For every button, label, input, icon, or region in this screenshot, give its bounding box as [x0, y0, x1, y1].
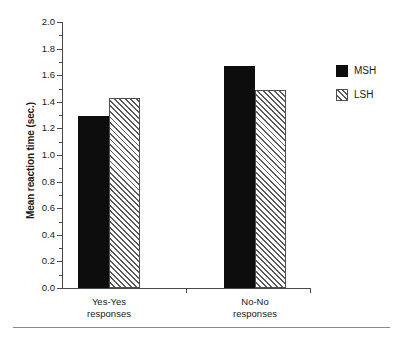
y-tick-label: 2.0	[42, 17, 55, 27]
y-tick-label: 0.6	[42, 203, 55, 213]
y-axis-title: Mean reaction time (sec.)	[25, 61, 36, 261]
y-minor-tick-mark	[59, 195, 62, 196]
x-category-label-no-no: No-Noresponses	[233, 296, 277, 320]
y-axis-line	[62, 22, 63, 288]
y-minor-tick-mark	[59, 35, 62, 36]
y-tick-mark	[57, 182, 62, 183]
y-minor-tick-mark	[59, 89, 62, 90]
y-tick-label: 0.2	[42, 257, 55, 267]
bar-msh-yes-yes	[78, 116, 109, 288]
y-tick-mark	[57, 208, 62, 209]
y-tick-label: 0.8	[42, 177, 55, 187]
y-tick-mark	[57, 102, 62, 103]
x-tick-mark	[310, 288, 311, 293]
legend-label: LSH	[354, 90, 373, 100]
bar-lsh-yes-yes	[109, 98, 140, 288]
legend-item-msh: MSH	[336, 62, 402, 80]
y-tick-mark	[57, 128, 62, 129]
bar-chart-figure: Mean reaction time (sec.) 0.00.20.40.60.…	[0, 0, 404, 340]
bottom-horizontal-rule	[13, 327, 390, 328]
plot-area: 0.00.20.40.60.81.01.21.41.61.82.0 Yes-Ye…	[62, 22, 310, 288]
y-tick-mark	[57, 22, 62, 23]
y-tick-mark	[57, 49, 62, 50]
y-tick-mark	[57, 235, 62, 236]
x-category-label-yes-yes: Yes-Yesresponses	[87, 296, 131, 320]
legend-swatch-lsh-icon	[336, 89, 348, 101]
y-tick-mark	[57, 75, 62, 76]
y-tick-mark	[57, 288, 62, 289]
y-tick-label: 1.0	[42, 150, 55, 160]
legend-label: MSH	[354, 66, 376, 76]
x-category-label-line: responses	[87, 308, 131, 320]
y-tick-label: 0.0	[42, 283, 55, 293]
x-category-label-line: No-No	[233, 296, 277, 308]
legend-item-lsh: LSH	[336, 86, 402, 104]
y-tick-label: 1.8	[42, 44, 55, 54]
y-minor-tick-mark	[59, 142, 62, 143]
y-minor-tick-mark	[59, 222, 62, 223]
x-category-label-line: Yes-Yes	[87, 296, 131, 308]
y-tick-mark	[57, 261, 62, 262]
y-tick-mark	[57, 155, 62, 156]
y-minor-tick-mark	[59, 62, 62, 63]
y-tick-label: 1.4	[42, 97, 55, 107]
y-tick-label: 1.6	[42, 70, 55, 80]
bar-lsh-no-no	[255, 90, 286, 288]
legend-swatch-msh-icon	[336, 65, 348, 77]
y-minor-tick-mark	[59, 168, 62, 169]
chart-legend: MSHLSH	[336, 62, 402, 110]
y-minor-tick-mark	[59, 248, 62, 249]
x-category-label-line: responses	[233, 308, 277, 320]
y-tick-label: 0.4	[42, 230, 55, 240]
bar-msh-no-no	[224, 66, 255, 288]
y-minor-tick-mark	[59, 115, 62, 116]
y-tick-label: 1.2	[42, 124, 55, 134]
x-tick-mark	[186, 288, 187, 293]
y-minor-tick-mark	[59, 275, 62, 276]
